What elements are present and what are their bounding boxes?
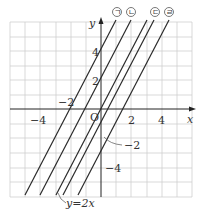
tick-x-4: 4 [158, 114, 165, 127]
tick-y-minus-2: −2 [124, 139, 140, 152]
svg-text:ㄷ: ㄷ [152, 8, 159, 17]
label-line-a: ㄱ [113, 8, 122, 18]
tick-x-2: 2 [128, 114, 135, 127]
tick-y-2: 2 [92, 75, 99, 88]
x-axis-arrow-icon [189, 107, 196, 112]
equation-label-y-2x: y=2x [65, 197, 95, 210]
line-graph: x y O −4 −2 2 4 4 2 −2 −4 y=2x ㄱ ㄴ ㄷ ㄹ [0, 0, 201, 215]
tick-y-minus-4: −4 [105, 162, 121, 175]
x-axis-label: x [187, 113, 194, 126]
origin-label: O [90, 111, 99, 124]
tick-x-minus-4: −4 [30, 114, 46, 127]
svg-text:ㄱ: ㄱ [114, 8, 121, 17]
label-line-b: ㄴ [127, 8, 136, 18]
label-line-c: ㄷ [151, 8, 160, 18]
tick-x-minus-2: −2 [58, 96, 74, 109]
y-axis-label: y [88, 17, 96, 30]
y-axis-arrow-icon [99, 17, 104, 24]
svg-text:ㄹ: ㄹ [166, 8, 173, 17]
leader-y-2x [58, 193, 66, 203]
label-line-d: ㄹ [165, 8, 174, 18]
svg-text:ㄴ: ㄴ [128, 8, 135, 17]
tick-y-4: 4 [92, 46, 99, 59]
